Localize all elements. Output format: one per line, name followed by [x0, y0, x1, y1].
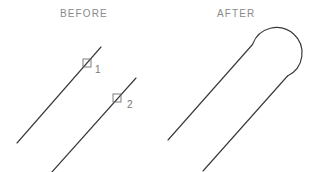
- figure-root: BEFORE AFTER 1 2: [0, 0, 315, 172]
- geometry-canvas: [0, 0, 315, 172]
- fillet-arc: [253, 27, 303, 76]
- after-line-1: [168, 45, 253, 141]
- before-line-1: [17, 47, 101, 143]
- after-panel-title: AFTER: [217, 8, 255, 19]
- pick-label-2: 2: [127, 99, 133, 110]
- after-line-2: [203, 76, 288, 171]
- pick-label-1: 1: [95, 64, 101, 75]
- before-line-2: [52, 78, 136, 172]
- pick-marker-2-icon[interactable]: [113, 94, 121, 102]
- before-panel-title: BEFORE: [60, 8, 108, 19]
- after-geometry: [168, 27, 302, 171]
- before-geometry: [17, 47, 136, 172]
